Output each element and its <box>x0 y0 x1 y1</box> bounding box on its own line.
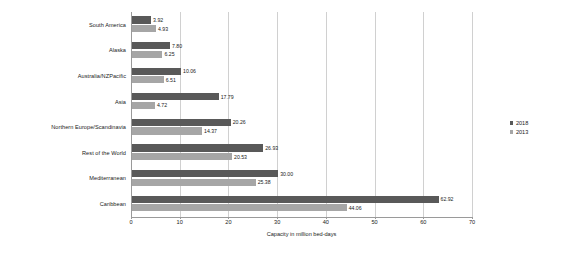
x-tick-label: 60 <box>420 219 426 225</box>
bar-2018[interactable]: 30.00 <box>132 170 278 177</box>
bar-value-label: 3.92 <box>153 17 163 23</box>
chart-row: South America3.924.93 <box>131 12 472 38</box>
legend-item[interactable]: 2018 <box>510 120 528 126</box>
bar-2013[interactable]: 25.38 <box>132 179 256 186</box>
bar-value-label: 25.38 <box>258 179 271 185</box>
category-label: South America <box>89 22 126 28</box>
x-tick-label: 20 <box>225 219 231 225</box>
category-label: Asia <box>115 99 126 105</box>
category-rows: South America3.924.93Alaska7.806.25Austr… <box>131 12 472 217</box>
bar-2013[interactable]: 20.53 <box>132 153 232 160</box>
bar-2013[interactable]: 14.37 <box>132 127 202 134</box>
legend-item[interactable]: 2013 <box>510 129 528 135</box>
bar-value-label: 6.51 <box>166 77 176 83</box>
x-tick-label: 50 <box>371 219 377 225</box>
bar-2018[interactable]: 62.92 <box>132 196 439 203</box>
chart-row: Mediterranean30.0025.38 <box>131 166 472 192</box>
x-tick-label: 70 <box>469 219 475 225</box>
bar-value-label: 4.93 <box>158 26 168 32</box>
x-axis-ticks: 010203040506070 <box>131 219 472 231</box>
bar-group: 7.806.25 <box>132 38 473 64</box>
chart-row: Caribbean62.9244.06 <box>131 191 472 217</box>
bar-2013[interactable]: 6.25 <box>132 51 162 58</box>
bar-value-label: 14.37 <box>204 128 217 134</box>
bar-2018[interactable]: 20.26 <box>132 119 231 126</box>
legend-label: 2018 <box>516 120 528 126</box>
bar-group: 62.9244.06 <box>132 191 473 217</box>
plot-area: South America3.924.93Alaska7.806.25Austr… <box>131 12 472 217</box>
x-tick-label: 40 <box>323 219 329 225</box>
bar-2013[interactable]: 4.93 <box>132 25 156 32</box>
chart-row: Australia/NZPacific10.066.51 <box>131 63 472 89</box>
legend-swatch-icon <box>510 121 513 124</box>
bar-chart: South America3.924.93Alaska7.806.25Austr… <box>0 0 566 265</box>
bar-2013[interactable]: 4.72 <box>132 102 155 109</box>
category-label: Rest of the World <box>82 150 126 156</box>
x-tick-label: 10 <box>177 219 183 225</box>
bar-2018[interactable]: 17.79 <box>132 93 219 100</box>
chart-row: Alaska7.806.25 <box>131 38 472 64</box>
bar-group: 10.066.51 <box>132 63 473 89</box>
bar-2018[interactable]: 3.92 <box>132 16 151 23</box>
bar-value-label: 62.92 <box>441 196 454 202</box>
bar-value-label: 30.00 <box>280 171 293 177</box>
bar-value-label: 26.93 <box>265 145 278 151</box>
chart-row: Northern Europe/Scandinavia20.2614.37 <box>131 114 472 140</box>
x-tick-label: 0 <box>129 219 132 225</box>
bar-value-label: 4.72 <box>157 102 167 108</box>
bar-group: 17.794.72 <box>132 89 473 115</box>
bar-group: 26.9320.53 <box>132 140 473 166</box>
bar-group: 3.924.93 <box>132 12 473 38</box>
bar-value-label: 20.53 <box>234 154 247 160</box>
bar-value-label: 10.06 <box>183 68 196 74</box>
legend-swatch-icon <box>510 130 513 133</box>
bar-2013[interactable]: 44.06 <box>132 204 347 211</box>
category-label: Australia/NZPacific <box>78 73 126 79</box>
bar-value-label: 17.79 <box>221 94 234 100</box>
bar-2018[interactable]: 26.93 <box>132 144 263 151</box>
bar-group: 30.0025.38 <box>132 166 473 192</box>
bar-2018[interactable]: 10.06 <box>132 68 181 75</box>
bar-group: 20.2614.37 <box>132 114 473 140</box>
chart-row: Asia17.794.72 <box>131 89 472 115</box>
legend-label: 2013 <box>516 129 528 135</box>
category-label: Mediterranean <box>89 175 126 181</box>
x-axis-line <box>131 217 473 218</box>
bar-2013[interactable]: 6.51 <box>132 76 164 83</box>
chart-legend: 20182013 <box>510 120 528 138</box>
x-axis-title: Capacity in million bed-days <box>131 231 472 237</box>
category-label: Alaska <box>109 47 126 53</box>
bar-2018[interactable]: 7.80 <box>132 42 170 49</box>
bar-value-label: 20.26 <box>233 119 246 125</box>
bar-value-label: 44.06 <box>349 205 362 211</box>
bar-value-label: 6.25 <box>164 51 174 57</box>
x-tick-label: 30 <box>274 219 280 225</box>
category-label: Caribbean <box>100 201 126 207</box>
chart-row: Rest of the World26.9320.53 <box>131 140 472 166</box>
bar-value-label: 7.80 <box>172 43 182 49</box>
category-label: Northern Europe/Scandinavia <box>51 124 126 130</box>
